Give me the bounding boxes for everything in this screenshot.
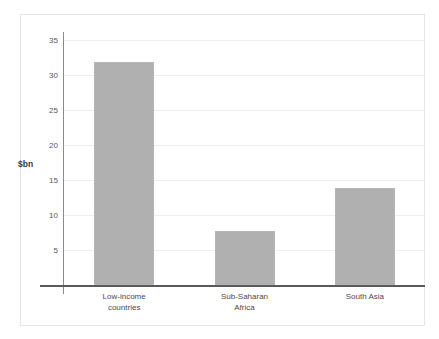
y-axis-unit-label: $bn	[18, 159, 33, 169]
y-axis-tick-labels: 5101520253035	[36, 40, 58, 285]
x-axis-category-label: Low-income countries	[64, 291, 184, 313]
y-axis-tick-label: 10	[49, 211, 58, 220]
y-axis-tick-label: 25	[49, 106, 58, 115]
plot-area	[64, 40, 425, 285]
y-axis-tick-label: 5	[54, 246, 58, 255]
x-axis-line	[40, 285, 425, 287]
bar	[335, 188, 395, 285]
x-axis-category-labels: Low-income countriesSub-Saharan AfricaSo…	[64, 291, 425, 327]
y-axis-tick-label: 20	[49, 141, 58, 150]
y-axis-tick-label: 30	[49, 71, 58, 80]
bar	[215, 231, 275, 285]
bar-chart: 5101520253035 $bn Low-income countriesSu…	[0, 0, 439, 339]
x-axis-category-label: South Asia	[305, 291, 425, 302]
bar	[94, 62, 154, 285]
y-axis-tick-label: 15	[49, 176, 58, 185]
y-axis-tick-label: 35	[49, 36, 58, 45]
gridline	[64, 40, 425, 41]
x-axis-category-label: Sub-Saharan Africa	[184, 291, 304, 313]
y-axis-line	[63, 32, 64, 294]
